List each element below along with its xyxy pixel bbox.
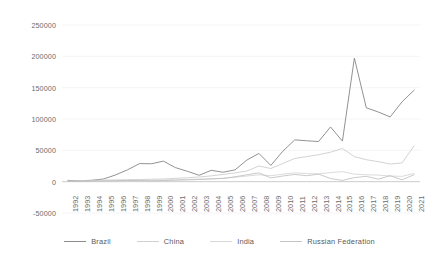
x-tick-label: 2016 [357,196,366,212]
x-tick-label: 2011 [298,196,307,212]
y-tick-label: 250000 [14,21,56,30]
x-tick-label: 2005 [226,196,235,212]
x-tick-label: 2015 [345,196,354,212]
x-tick-label: 2017 [369,196,378,212]
legend-line-icon [210,241,232,242]
legend-label: India [237,237,254,246]
x-tick-label: 1994 [95,196,104,212]
legend-item[interactable]: China [137,237,184,246]
x-tick-label: 1993 [83,196,92,212]
x-tick-label: 2008 [262,196,271,212]
x-tick-label: 2002 [190,196,199,212]
x-tick-label: 2004 [214,196,223,212]
x-tick-label: 2018 [381,196,390,212]
x-tick-label: 2020 [405,196,414,212]
x-tick-label: 2014 [334,196,343,212]
plot-area [0,0,439,257]
legend-line-icon [137,241,159,242]
x-tick-label: 2021 [417,196,426,212]
legend-item[interactable]: Brazil [64,237,111,246]
legend-label: Russian Federation [307,237,375,246]
y-tick-label: 50000 [14,146,56,155]
x-tick-label: 1992 [71,196,80,212]
x-tick-label: 2019 [393,196,402,212]
x-tick-label: 2006 [238,196,247,212]
series-lines [68,58,414,181]
x-tick-label: 2009 [274,196,283,212]
legend-item[interactable]: Russian Federation [280,237,375,246]
legend-line-icon [280,241,302,242]
x-tick-label: 1996 [119,196,128,212]
x-tick-label: 2012 [310,196,319,212]
legend-label: China [164,237,184,246]
x-tick-label: 1997 [131,196,140,212]
x-tick-label: 1999 [155,196,164,212]
x-tick-label: 2001 [178,196,187,212]
x-tick-label: 2010 [286,196,295,212]
x-tick-label: 2003 [202,196,211,212]
y-tick-label: 100000 [14,115,56,124]
legend-item[interactable]: India [210,237,254,246]
line-chart: 250000200000150000100000500000-50000 199… [0,0,439,257]
series-line [68,58,414,181]
y-tick-label: 0 [14,178,56,187]
x-tick-label: 2013 [322,196,331,212]
x-tick-label: 1998 [143,196,152,212]
legend-label: Brazil [91,237,111,246]
gridlines [62,25,420,213]
y-tick-label: 200000 [14,52,56,61]
y-tick-label: -50000 [14,209,56,218]
x-tick-label: 1995 [107,196,116,212]
x-tick-label: 2000 [166,196,175,212]
legend-line-icon [64,241,86,242]
chart-legend: BrazilChinaIndiaRussian Federation [0,231,439,251]
x-tick-label: 2007 [250,196,259,212]
y-tick-label: 150000 [14,84,56,93]
